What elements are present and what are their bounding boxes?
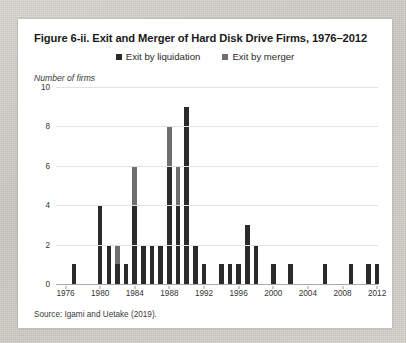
bar-segment-liquidation [366,264,371,284]
legend-label: Exit by liquidation [126,51,201,62]
chart-bar [271,264,276,284]
chart-bars [56,87,378,284]
chart-bar [176,166,181,284]
chart-bar [228,264,233,284]
chart-bar [132,166,137,284]
bar-segment-liquidation [202,264,207,284]
chart-bar [245,225,250,284]
bar-segment-liquidation [115,264,120,284]
bar-segment-merger [132,166,137,205]
chart-bar [107,245,112,284]
gridline [56,166,378,167]
chart-bar [124,264,129,284]
bar-segment-liquidation [288,264,293,284]
x-tick-label: 1988 [160,289,178,298]
bar-segment-liquidation [254,245,259,284]
bar-segment-liquidation [72,264,77,284]
legend-swatch-merger [222,54,228,60]
chart-bar [323,264,328,284]
y-axis-title: Number of firms [34,73,95,83]
chart-bar [158,245,163,284]
bar-segment-liquidation [375,264,380,284]
bar-segment-liquidation [219,264,224,284]
bar-segment-merger [176,166,181,205]
x-tick-label: 2012 [368,289,386,298]
x-tick-label: 2000 [264,289,282,298]
bar-segment-liquidation [107,245,112,284]
gridline [56,205,378,206]
bar-segment-liquidation [150,245,155,284]
bar-segment-liquidation [349,264,354,284]
legend-item-merger: Exit by merger [222,51,294,62]
figure-title: Figure 6-ii. Exit and Merger of Hard Dis… [34,32,382,44]
bar-segment-liquidation [193,245,198,284]
figure-source: Source: Igami and Uetake (2019). [34,310,157,319]
legend-swatch-liquidation [116,54,122,60]
x-tick-label: 1992 [195,289,213,298]
x-axis-baseline [56,284,378,285]
y-tick-label: 6 [45,161,50,170]
bar-segment-liquidation [124,264,129,284]
chart-plot-area: 0246810 [34,87,378,285]
chart-bar [193,245,198,284]
chart-bar [202,264,207,284]
x-tick-label: 1996 [230,289,248,298]
chart-bar [366,264,371,284]
gridline [56,245,378,246]
chart-bar [115,245,120,284]
x-tick-label: 1980 [91,289,109,298]
bar-segment-merger [167,126,172,165]
x-tick-label: 2008 [333,289,351,298]
figure-card: Figure 6-ii. Exit and Merger of Hard Dis… [18,19,392,328]
bar-segment-liquidation [184,107,189,284]
gridline [56,126,378,127]
gridline [56,87,378,88]
x-tick-label: 1976 [56,289,74,298]
y-tick-label: 0 [45,280,50,289]
chart-bar [288,264,293,284]
chart-bar [150,245,155,284]
y-tick-label: 2 [45,240,50,249]
chart-grid [56,87,378,285]
y-tick-label: 4 [45,201,50,210]
chart-bar [375,264,380,284]
chart-legend: Exit by liquidationExit by merger [18,51,392,62]
bar-segment-liquidation [245,225,250,284]
chart-bar [236,264,241,284]
y-tick-label: 8 [45,122,50,131]
legend-item-liquidation: Exit by liquidation [116,51,201,62]
x-axis-ticks: 1976198019841988199219962000200420082012 [56,289,392,303]
bar-segment-liquidation [141,245,146,284]
y-tick-label: 10 [41,83,50,92]
y-axis-ticks: 0246810 [34,87,54,285]
bar-segment-liquidation [236,264,241,284]
legend-label: Exit by merger [232,51,294,62]
bar-segment-liquidation [158,245,163,284]
bar-segment-liquidation [323,264,328,284]
x-tick-label: 1984 [126,289,144,298]
bar-segment-liquidation [271,264,276,284]
chart-bar [72,264,77,284]
chart-bar [141,245,146,284]
bar-segment-liquidation [167,166,172,284]
bar-segment-liquidation [228,264,233,284]
bar-segment-merger [115,245,120,265]
chart-bar [254,245,259,284]
x-tick-label: 2004 [299,289,317,298]
chart-bar [349,264,354,284]
chart-bar [184,107,189,284]
chart-bar [219,264,224,284]
